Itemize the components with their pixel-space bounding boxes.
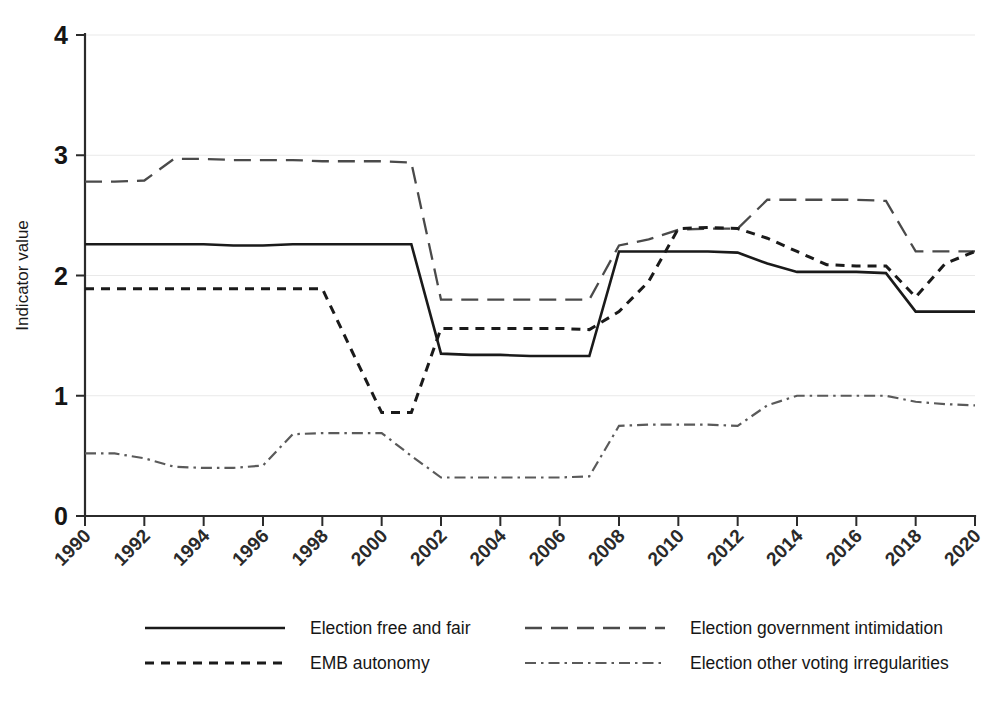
axes [76, 34, 975, 526]
y-axis-title: Indicator value [13, 220, 32, 331]
chart-figure: 01234 1990199219941996199820002002200420… [0, 0, 1005, 707]
x-tick-label-1996: 1996 [228, 525, 273, 570]
legend-label-emb-autonomy: EMB autonomy [310, 653, 430, 673]
y-tick-label-3: 3 [54, 141, 68, 169]
x-tick-label-2008: 2008 [584, 525, 629, 570]
x-tick-label-1998: 1998 [287, 525, 332, 570]
y-tick-labels: 01234 [54, 21, 68, 530]
x-tick-label-2000: 2000 [347, 525, 392, 570]
x-tick-label-1992: 1992 [109, 525, 154, 570]
series-line-election-government-intimidation [85, 159, 975, 300]
x-tick-label-1990: 1990 [50, 525, 95, 570]
chart-legend: Election free and fairElection governmen… [145, 618, 949, 673]
x-tick-label-2010: 2010 [643, 525, 688, 570]
y-tick-label-1: 1 [54, 382, 68, 410]
x-tick-label-2014: 2014 [762, 525, 807, 570]
legend-label-election-other-voting-irregularities: Election other voting irregularities [690, 653, 949, 673]
grid-lines [85, 35, 975, 516]
x-tick-label-2016: 2016 [821, 525, 866, 570]
legend-label-election-government-intimidation: Election government intimidation [690, 618, 943, 638]
series-line-election-other-voting-irregularities [85, 396, 975, 478]
legend-label-election-free-and-fair: Election free and fair [310, 618, 471, 638]
x-tick-label-2006: 2006 [525, 525, 570, 570]
line-chart: 01234 1990199219941996199820002002200420… [0, 0, 1005, 707]
x-tick-label-2020: 2020 [940, 525, 985, 570]
y-axis-title-label: Indicator value [13, 220, 32, 331]
x-tick-labels: 1990199219941996199820002002200420062008… [50, 525, 985, 570]
x-tick-label-2012: 2012 [703, 525, 748, 570]
x-tick-label-2002: 2002 [406, 525, 451, 570]
x-tick-label-2004: 2004 [465, 525, 510, 570]
x-tick-label-1994: 1994 [169, 525, 214, 570]
x-tick-label-2018: 2018 [881, 525, 926, 570]
y-tick-label-2: 2 [54, 262, 68, 290]
data-series [85, 159, 975, 478]
y-tick-label-4: 4 [54, 21, 68, 49]
y-tick-label-0: 0 [54, 502, 68, 530]
series-line-emb-autonomy [85, 227, 975, 412]
